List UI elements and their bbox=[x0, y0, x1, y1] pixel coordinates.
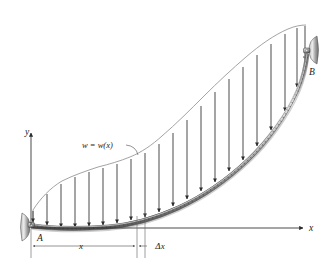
cable-load-diagram: A B y x w = w(x) x Δx bbox=[0, 0, 329, 272]
label-point-a: A bbox=[36, 233, 43, 243]
label-dimension-delta-x: Δx bbox=[154, 241, 164, 251]
label-point-b: B bbox=[309, 67, 315, 77]
label-load-function: w = w(x) bbox=[82, 140, 113, 150]
label-axis-y: y bbox=[24, 127, 30, 137]
label-dimension-x: x bbox=[78, 241, 83, 251]
figure-root: A B y x w = w(x) x Δx bbox=[0, 0, 329, 272]
label-axis-x: x bbox=[308, 223, 314, 233]
support-b-pin bbox=[305, 49, 308, 52]
